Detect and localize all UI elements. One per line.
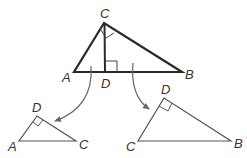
label-b: B: [185, 67, 194, 82]
label-d: D: [101, 76, 110, 91]
label-c: C: [126, 139, 136, 154]
label-a: A: [61, 70, 71, 85]
label-a: A: [7, 139, 17, 154]
label-d: D: [161, 82, 170, 97]
arrow-to-left-triangle: [55, 66, 91, 121]
right-triangle-cdb: D C B: [126, 82, 243, 154]
altitude-cd: [105, 23, 106, 72]
arrow-to-right-triangle: [133, 63, 149, 109]
main-triangle: C A D B: [61, 6, 194, 91]
label-d: D: [32, 100, 41, 115]
similar-triangles-diagram: C A D B D A C D C B: [0, 0, 247, 158]
right-angle-mark-d: [105, 61, 117, 72]
label-c: C: [100, 6, 110, 21]
right-angle-mark-c: [101, 30, 114, 38]
label-c: C: [79, 137, 89, 152]
right-angle-mark-d: [33, 120, 43, 126]
label-b: B: [234, 136, 243, 151]
